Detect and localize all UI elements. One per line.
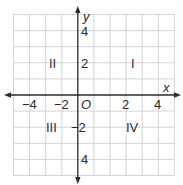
origin-label: O bbox=[81, 97, 91, 112]
x-tick-neg4: −4 bbox=[22, 97, 37, 112]
y-axis-up-arrow-icon bbox=[75, 6, 80, 13]
y-axis-label: y bbox=[82, 9, 91, 24]
x-axis-label: x bbox=[162, 80, 170, 95]
y-axis-down-arrow-icon bbox=[75, 177, 80, 184]
y-tick-2: 2 bbox=[81, 56, 88, 71]
quadrant-III-label: III bbox=[46, 120, 57, 135]
quadrant-IV-label: IV bbox=[126, 120, 139, 135]
y-tick-neg2: −2 bbox=[71, 120, 86, 135]
x-tick-4: 4 bbox=[154, 97, 161, 112]
quadrant-II-label: II bbox=[49, 56, 56, 71]
y-tick-4: 4 bbox=[81, 24, 88, 39]
coordinate-plane: y x −4 −2 O 2 4 4 2 −2 4 I II III IV bbox=[0, 0, 183, 185]
x-tick-2: 2 bbox=[122, 97, 129, 112]
x-tick-neg2: −2 bbox=[54, 97, 69, 112]
y-tick-neg4: 4 bbox=[81, 152, 88, 167]
x-axis-right-arrow-icon bbox=[174, 92, 181, 97]
x-axis-left-arrow-icon bbox=[4, 92, 11, 97]
quadrant-I-label: I bbox=[131, 56, 135, 71]
